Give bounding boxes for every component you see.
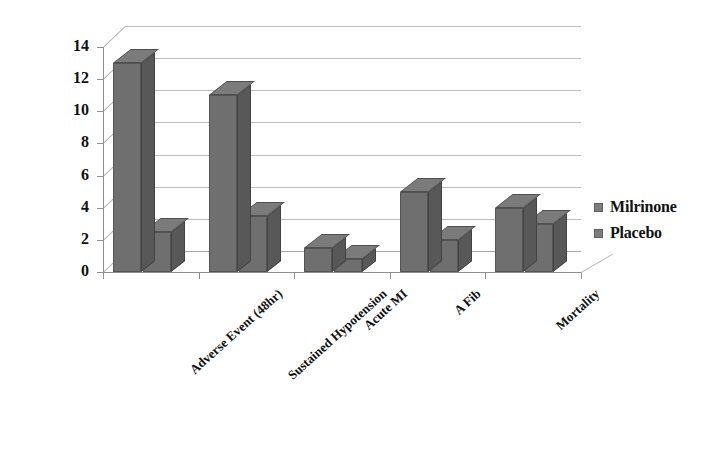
- legend-label: Milrinone: [610, 198, 677, 216]
- y-axis-tick: [97, 47, 104, 48]
- floor-right-edge: [581, 254, 613, 273]
- y-axis-tick-label: 12: [40, 70, 89, 86]
- bar-front-face: [209, 95, 237, 272]
- depth-connector: [103, 26, 126, 48]
- x-axis-tick: [390, 272, 391, 279]
- x-axis-tick: [199, 272, 200, 279]
- chart-container: 02468101214 Adverse Event (48hr)Sustaine…: [0, 0, 716, 456]
- y-axis-tick-label: 6: [40, 167, 89, 183]
- bar-side-face: [141, 52, 155, 272]
- bar-front-face: [400, 192, 428, 272]
- y-axis-tick: [97, 79, 104, 80]
- y-axis-tick: [97, 240, 104, 241]
- y-axis-tick: [97, 176, 104, 177]
- bar-milrinone-3[interactable]: [400, 192, 428, 272]
- y-axis-tick: [97, 208, 104, 209]
- bar-milrinone-2[interactable]: [304, 248, 332, 272]
- y-axis-tick-label: 0: [40, 263, 89, 279]
- y-axis-tick-label: 2: [40, 231, 89, 247]
- category-label: Mortality: [552, 286, 602, 334]
- y-axis-tick-label: 10: [40, 102, 89, 118]
- legend-item-placebo[interactable]: Placebo: [594, 220, 677, 246]
- y-axis-tick-label: 8: [40, 134, 89, 150]
- bar-side-face: [267, 205, 281, 272]
- gridline: [125, 187, 581, 188]
- y-axis: [103, 47, 104, 272]
- gridline: [125, 122, 581, 123]
- plot-area: [103, 26, 581, 272]
- legend-label: Placebo: [610, 224, 662, 242]
- category-label: A Fib: [451, 286, 485, 318]
- bar-milrinone-4[interactable]: [495, 208, 523, 272]
- bar-front-face: [495, 208, 523, 272]
- y-axis-tick: [97, 143, 104, 144]
- x-axis-tick: [103, 272, 104, 279]
- legend-item-milrinone[interactable]: Milrinone: [594, 194, 677, 220]
- category-label: Sustained Hypotension: [285, 286, 390, 383]
- category-label: Adverse Event (48hr): [187, 286, 286, 378]
- legend-swatch-icon: [594, 203, 603, 212]
- bar-side-face: [428, 181, 442, 272]
- y-axis-tick-label: 4: [40, 199, 89, 215]
- bar-milrinone-1[interactable]: [209, 95, 237, 272]
- gridline: [125, 90, 581, 91]
- y-axis-tick: [97, 111, 104, 112]
- x-axis: [103, 272, 581, 273]
- legend-swatch-icon: [594, 229, 603, 238]
- bar-front-face: [304, 248, 332, 272]
- x-axis-tick: [294, 272, 295, 279]
- bar-front-face: [113, 63, 141, 272]
- y-axis-tick-label: 14: [40, 38, 89, 54]
- legend: Milrinone Placebo: [594, 194, 677, 246]
- bar-side-face: [523, 197, 537, 272]
- bar-side-face: [237, 84, 251, 272]
- gridline: [125, 58, 581, 59]
- bar-milrinone-0[interactable]: [113, 63, 141, 272]
- gridline: [125, 26, 581, 27]
- x-axis-tick: [485, 272, 486, 279]
- gridline: [125, 155, 581, 156]
